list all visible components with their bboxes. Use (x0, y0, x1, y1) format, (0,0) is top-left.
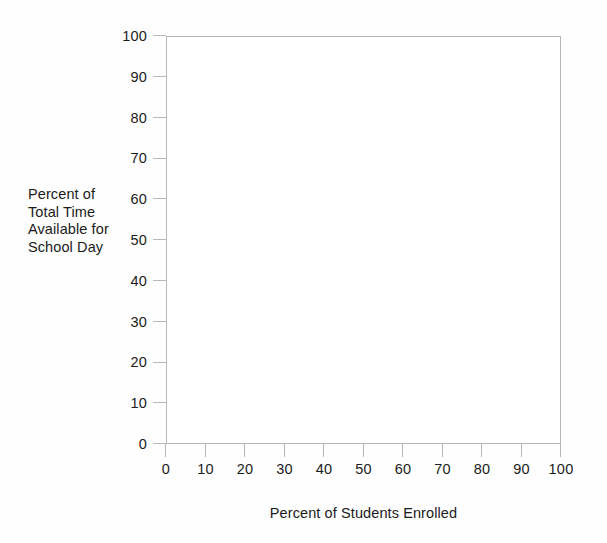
y-axis-tick-label: 100 (103, 29, 147, 44)
y-axis-tick (153, 239, 166, 240)
x-axis-tick (244, 444, 245, 457)
x-axis-tick (481, 444, 482, 457)
x-axis-tick (205, 444, 206, 457)
y-axis-tick-label: 60 (103, 192, 147, 207)
y-axis-tick-label: 80 (103, 111, 147, 126)
x-axis-tick-label: 30 (276, 462, 293, 477)
x-axis-tick-label: 90 (513, 462, 530, 477)
x-axis-tick-label: 70 (434, 462, 451, 477)
x-axis-tick (402, 444, 403, 457)
y-axis-tick-label: 30 (103, 315, 147, 330)
y-axis-tick (153, 443, 166, 444)
x-axis-tick (363, 444, 364, 457)
x-axis-tick (284, 444, 285, 457)
x-axis-tick-label: 40 (316, 462, 333, 477)
x-axis-tick (560, 444, 561, 457)
y-axis-tick (153, 321, 166, 322)
x-axis-tick-label: 50 (355, 462, 372, 477)
y-axis-tick-label: 10 (103, 396, 147, 411)
y-axis-tick-label: 70 (103, 151, 147, 166)
x-axis-tick-label: 80 (474, 462, 491, 477)
x-axis-tick-label: 0 (162, 462, 170, 477)
chart-page: Percent of Total Time Available for Scho… (0, 0, 607, 543)
y-axis-tick (153, 158, 166, 159)
y-axis-tick-label: 90 (103, 70, 147, 85)
x-axis-tick (323, 444, 324, 457)
y-axis-tick (153, 117, 166, 118)
y-axis-tick-label: 50 (103, 233, 147, 248)
x-axis-tick (165, 444, 166, 457)
x-axis-title: Percent of Students Enrolled (166, 505, 561, 521)
y-axis-tick (153, 35, 166, 36)
x-axis-tick-label: 20 (237, 462, 254, 477)
y-axis-tick (153, 362, 166, 363)
y-axis-tick-label: 0 (103, 437, 147, 452)
x-axis-tick (442, 444, 443, 457)
y-axis-tick (153, 198, 166, 199)
x-axis-tick-label: 10 (197, 462, 214, 477)
y-axis-tick-label: 20 (103, 355, 147, 370)
y-axis-tick (153, 402, 166, 403)
y-axis-tick (153, 76, 166, 77)
x-axis-tick-label: 60 (395, 462, 412, 477)
x-axis-tick (521, 444, 522, 457)
y-axis-tick (153, 280, 166, 281)
y-axis-tick-label: 40 (103, 274, 147, 289)
plot-area (166, 36, 561, 444)
x-axis-tick-label: 100 (549, 462, 574, 477)
